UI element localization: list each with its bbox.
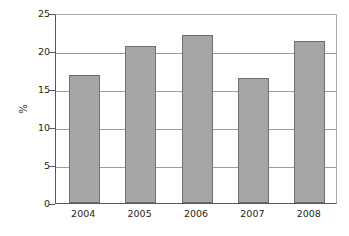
y-axis-tick-mark bbox=[49, 128, 55, 129]
x-axis-tick-labels: 20042005200620072008 bbox=[55, 209, 337, 225]
x-axis-tick-label: 2005 bbox=[128, 209, 152, 219]
bar-chart: % 0510152025 20042005200620072008 bbox=[0, 0, 349, 236]
y-axis-tick-label: 20 bbox=[28, 47, 50, 57]
y-axis-tick-labels: 0510152025 bbox=[26, 14, 50, 204]
bars-group bbox=[56, 15, 336, 203]
x-axis-tick-label: 2007 bbox=[240, 209, 264, 219]
x-axis-tick-label: 2008 bbox=[297, 209, 321, 219]
x-axis-tick-label: 2006 bbox=[184, 209, 208, 219]
y-axis-tick-label: 25 bbox=[28, 9, 50, 19]
y-axis-tick-label: 15 bbox=[28, 85, 50, 95]
bar-2006 bbox=[182, 35, 213, 203]
bar-2004 bbox=[69, 75, 100, 203]
y-axis-tick-mark bbox=[49, 52, 55, 53]
bar-2005 bbox=[125, 46, 156, 203]
y-axis-tick-label: 10 bbox=[28, 123, 50, 133]
bar-2008 bbox=[294, 41, 325, 203]
y-axis-tick-mark bbox=[49, 90, 55, 91]
plot-area bbox=[55, 14, 337, 204]
y-axis-tick-mark bbox=[49, 14, 55, 15]
y-axis-tick-mark bbox=[49, 204, 55, 205]
y-axis-tick-mark bbox=[49, 166, 55, 167]
y-axis-tick-label: 5 bbox=[28, 161, 50, 171]
bar-2007 bbox=[238, 78, 269, 203]
x-axis-tick-label: 2004 bbox=[71, 209, 95, 219]
y-axis-tick-label: 0 bbox=[28, 199, 50, 209]
